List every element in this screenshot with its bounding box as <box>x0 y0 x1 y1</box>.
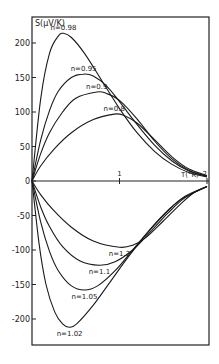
x-axis-title: T(°K) <box>180 171 199 179</box>
curve-label: n=0.9 <box>86 83 107 91</box>
y-tick-label: 200 <box>15 39 30 48</box>
curve-label: n=1.1 <box>89 268 110 276</box>
curve-label: n=1.02 <box>57 330 83 338</box>
curve-label: n=1.05 <box>72 293 98 301</box>
curve-label: n=1.2 <box>109 250 130 258</box>
y-axis-title: S(µV/K) <box>35 19 65 28</box>
y-tick-label: 50 <box>20 143 30 152</box>
y-tick-label: -50 <box>17 212 30 221</box>
chart-svg: 200150100500-50-100-150-200 12 n=0.98n=0… <box>0 0 219 364</box>
y-tick-label: -200 <box>12 315 30 324</box>
x-tick-label: 1 <box>117 170 121 178</box>
y-tick-label: -100 <box>12 246 30 255</box>
y-tick-label: 100 <box>15 108 30 117</box>
y-tick-label: -150 <box>12 281 30 290</box>
curve-label: n=0.8 <box>104 105 125 113</box>
y-tick-label: 150 <box>15 74 30 83</box>
seebeck-coefficient-chart: 200150100500-50-100-150-200 12 n=0.98n=0… <box>0 0 219 364</box>
curve-n-1_2 <box>32 181 207 247</box>
y-tick-label: 0 <box>25 177 30 186</box>
curve-label: n=0.95 <box>71 65 97 73</box>
curve-n-1_05 <box>32 181 207 290</box>
